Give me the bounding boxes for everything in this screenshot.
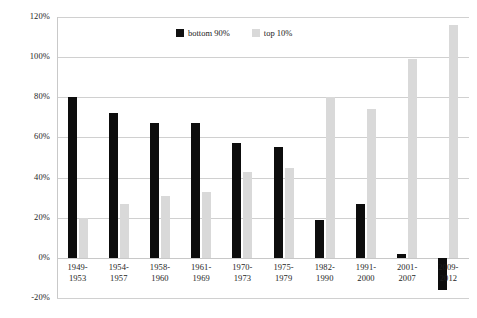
- x-tick-label: 1958- 1960: [139, 262, 181, 283]
- x-tick-label: 1961- 1969: [180, 262, 222, 283]
- y-tick-label: 60%: [34, 132, 50, 141]
- x-tick-label: 2009- 2012: [427, 262, 469, 283]
- x-axis-labels: 1949- 19531954- 19571958- 19601961- 1969…: [57, 0, 469, 318]
- y-tick-label: 40%: [34, 173, 50, 182]
- bar-chart: 120%100%80%60%40%20%0%-20% bottom 90%top…: [0, 0, 477, 318]
- x-tick-label: 1949- 1953: [57, 262, 99, 283]
- x-tick-label: 1970- 1973: [221, 262, 263, 283]
- y-tick-label: 120%: [30, 12, 50, 21]
- y-tick-label: 100%: [30, 52, 50, 61]
- y-tick-label: 80%: [34, 92, 50, 101]
- x-tick-label: 1991- 2000: [345, 262, 387, 283]
- y-tick-label: 20%: [34, 213, 50, 222]
- y-tick-label: -20%: [31, 293, 50, 302]
- y-axis-labels: 120%100%80%60%40%20%0%-20%: [0, 0, 55, 318]
- x-tick-label: 1975- 1979: [263, 262, 305, 283]
- x-tick-label: 2001- 2007: [386, 262, 428, 283]
- x-tick-label: 1954- 1957: [98, 262, 140, 283]
- x-tick-label: 1982- 1990: [304, 262, 346, 283]
- y-tick-label: 0%: [38, 253, 50, 262]
